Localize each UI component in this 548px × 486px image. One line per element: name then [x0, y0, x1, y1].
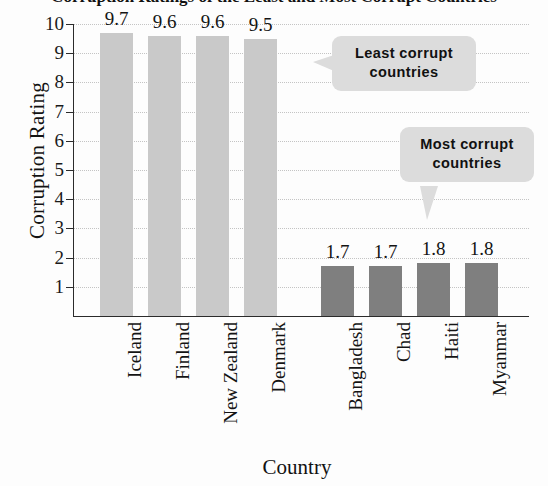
x-axis-category-label: Iceland: [125, 322, 144, 378]
x-axis-category-label: Myanmar: [490, 322, 509, 396]
callout-tail-most-corrupt: [420, 186, 438, 220]
y-axis-tick-label: 7: [36, 102, 64, 121]
bar-value-label: 9.7: [92, 9, 141, 28]
bar: [196, 36, 229, 316]
callout-most-corrupt-line1: Most corrupt: [420, 136, 513, 152]
bar: [244, 39, 277, 316]
x-axis-category-label: New Zealand: [221, 322, 240, 424]
bar-value-label: 9.5: [236, 15, 285, 34]
x-axis-category-label: Finland: [173, 322, 192, 380]
y-axis-tick-label: 10: [36, 14, 64, 33]
callout-most-corrupt: Most corrupt countries: [400, 127, 534, 182]
chart-figure: Corruption Ratings of the Least and Most…: [0, 0, 548, 486]
y-axis-tick-labels: 10987654321: [28, 0, 64, 486]
bar-value-label: 9.6: [188, 12, 237, 31]
bar: [369, 266, 402, 316]
bar-value-label: 1.8: [457, 239, 506, 258]
bar: [321, 266, 354, 316]
x-axis-line: [73, 316, 529, 317]
callout-tail-least-corrupt: [313, 55, 334, 71]
chart-title: Corruption Ratings of the Least and Most…: [0, 0, 548, 7]
bar-value-label: 1.7: [361, 242, 410, 261]
y-axis-tick-label: 3: [36, 218, 64, 237]
bar: [417, 263, 450, 316]
bar-value-label: 1.8: [409, 239, 458, 258]
x-axis-category-label: Haiti: [442, 322, 461, 360]
bar: [100, 33, 133, 316]
bar-value-label: 9.6: [140, 12, 189, 31]
callout-most-corrupt-line2: countries: [413, 154, 521, 173]
bar-value-label: 1.7: [313, 242, 362, 261]
x-axis-category-label: Denmark: [269, 322, 288, 393]
bar: [465, 263, 498, 316]
y-axis-tick-label: 4: [36, 189, 64, 208]
y-axis-tick-label: 6: [36, 131, 64, 150]
y-axis-tick-label: 1: [36, 277, 64, 296]
callout-least-corrupt-line2: countries: [345, 63, 463, 82]
callout-least-corrupt: Least corrupt countries: [332, 36, 476, 91]
y-axis-tick-label: 8: [36, 72, 64, 91]
x-axis-category-label: Chad: [394, 322, 413, 362]
x-axis-category-label: Bangladesh: [346, 322, 365, 411]
callout-least-corrupt-line1: Least corrupt: [355, 45, 453, 61]
y-axis-tick-label: 2: [36, 248, 64, 267]
y-axis-tick-label: 5: [36, 160, 64, 179]
bar: [148, 36, 181, 316]
x-axis-title: Country: [0, 455, 548, 480]
y-axis-tick-label: 9: [36, 43, 64, 62]
